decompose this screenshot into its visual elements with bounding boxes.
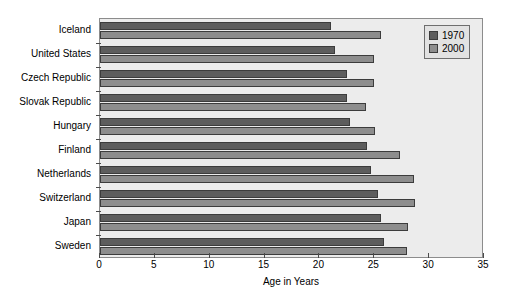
bar-group [100, 211, 482, 235]
bar-czech-republic-2000 [100, 79, 374, 87]
x-axis-tick-mark [428, 253, 429, 258]
x-axis-tick-label: 25 [368, 259, 379, 270]
y-axis-tick [96, 43, 101, 44]
x-axis-tick-mark [99, 253, 100, 258]
x-axis: 05101520253035 [99, 258, 483, 278]
x-axis-tick-label: 35 [477, 259, 488, 270]
bar-finland-2000 [100, 151, 400, 159]
x-axis-tick-mark [209, 253, 210, 258]
legend-label-1970: 1970 [442, 30, 464, 41]
legend-item-1970: 1970 [429, 29, 464, 42]
y-axis-label-slovak-republic: Slovak Republic [0, 90, 95, 114]
bar-group [100, 115, 482, 139]
y-axis-label-iceland: Iceland [0, 18, 95, 42]
x-axis-tick-mark [318, 253, 319, 258]
bar-slovak-republic-1970 [100, 94, 347, 102]
legend-item-2000: 2000 [429, 42, 464, 55]
bar-group [100, 163, 482, 187]
bar-group [100, 91, 482, 115]
y-axis-labels: Iceland United States Czech Republic Slo… [0, 18, 95, 258]
bar-hungary-1970 [100, 118, 350, 126]
legend: 1970 2000 [424, 25, 470, 59]
bar-switzerland-1970 [100, 190, 378, 198]
bar-group [100, 187, 482, 211]
bar-czech-republic-1970 [100, 70, 347, 78]
legend-swatch-icon-1970 [429, 31, 438, 40]
y-axis-label-netherlands: Netherlands [0, 162, 95, 186]
bar-united-states-1970 [100, 46, 335, 54]
bar-japan-2000 [100, 223, 408, 231]
y-axis-label-hungary: Hungary [0, 114, 95, 138]
x-axis-tick-mark [264, 253, 265, 258]
bar-netherlands-2000 [100, 175, 414, 183]
bar-group [100, 67, 482, 91]
x-axis-title: Age in Years [99, 276, 483, 287]
y-axis-tick [96, 139, 101, 140]
x-axis-tick-label: 15 [258, 259, 269, 270]
x-axis-tick-mark [483, 253, 484, 258]
bar-iceland-2000 [100, 31, 381, 39]
bar-slovak-republic-2000 [100, 103, 366, 111]
y-axis-label-japan: Japan [0, 210, 95, 234]
x-axis-tick-mark [373, 253, 374, 258]
x-axis-tick-label: 10 [203, 259, 214, 270]
bar-sweden-1970 [100, 238, 384, 246]
y-axis-label-finland: Finland [0, 138, 95, 162]
y-axis-label-sweden: Sweden [0, 234, 95, 258]
x-axis-tick-label: 20 [313, 259, 324, 270]
bar-iceland-1970 [100, 22, 331, 30]
bar-united-states-2000 [100, 55, 374, 63]
y-axis-label-czech-republic: Czech Republic [0, 66, 95, 90]
bar-sweden-2000 [100, 247, 407, 255]
y-axis-label-united-states: United States [0, 42, 95, 66]
bar-group [100, 235, 482, 259]
bar-netherlands-1970 [100, 166, 371, 174]
bar-switzerland-2000 [100, 199, 415, 207]
y-axis-label-switzerland: Switzerland [0, 186, 95, 210]
y-axis-tick [96, 235, 101, 236]
x-axis-tick-label: 5 [151, 259, 157, 270]
y-axis-tick [96, 163, 101, 164]
legend-label-2000: 2000 [442, 43, 464, 54]
legend-swatch-icon-2000 [429, 44, 438, 53]
bar-hungary-2000 [100, 127, 375, 135]
bar-finland-1970 [100, 142, 367, 150]
y-axis-tick [96, 115, 101, 116]
bar-japan-1970 [100, 214, 381, 222]
y-axis-tick [96, 91, 101, 92]
y-axis-tick [96, 211, 101, 212]
bar-chart: Iceland United States Czech Republic Slo… [0, 0, 511, 297]
x-axis-tick-label: 30 [423, 259, 434, 270]
y-axis-tick [96, 187, 101, 188]
y-axis-tick [96, 67, 101, 68]
x-axis-tick-mark [154, 253, 155, 258]
x-axis-tick-label: 0 [96, 259, 102, 270]
bar-group [100, 139, 482, 163]
